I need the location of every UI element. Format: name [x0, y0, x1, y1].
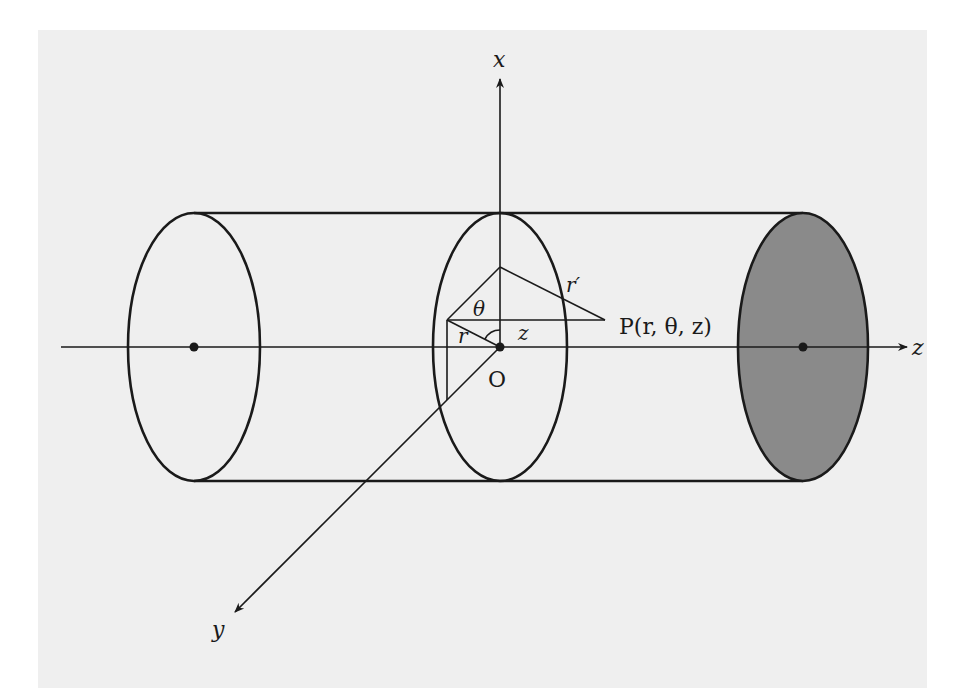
origin-label: O — [488, 367, 506, 392]
cylinder-coordinate-diagram: x y z O θ r z r′ P(r, θ, z) — [0, 0, 968, 691]
z-label: z — [517, 321, 529, 345]
right-center-dot — [799, 343, 808, 352]
theta-label: θ — [473, 297, 485, 321]
x-axis-label: x — [493, 47, 506, 72]
origin-dot — [496, 343, 505, 352]
r-prime-label: r′ — [566, 273, 581, 297]
y-axis-label: y — [211, 617, 225, 642]
point-p-label: P(r, θ, z) — [619, 314, 712, 339]
left-center-dot — [190, 343, 199, 352]
z-axis-label: z — [911, 335, 924, 360]
r-label: r — [458, 324, 469, 348]
